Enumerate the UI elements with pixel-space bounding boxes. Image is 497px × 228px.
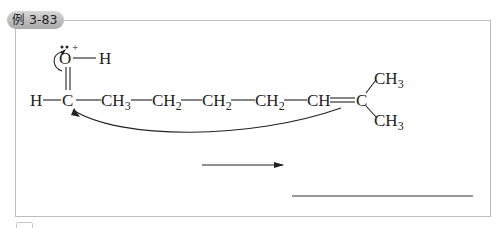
chain-group-5: CH bbox=[307, 91, 331, 110]
note-box bbox=[16, 222, 33, 228]
chain-group-4: CH2 bbox=[255, 91, 285, 113]
chain-group-3: CH2 bbox=[202, 91, 232, 113]
terminal-carbon: C bbox=[356, 91, 367, 110]
carbonyl-carbon: C bbox=[62, 91, 73, 110]
oh-hydrogen: H bbox=[99, 49, 111, 68]
chain-group-1: CH3 bbox=[101, 91, 131, 113]
reaction-diagram: O + H H C CH3 CH2 CH2 CH2 CH C CH3 CH3 bbox=[0, 0, 497, 228]
chain-group-2: CH2 bbox=[152, 91, 182, 113]
cyclization-arrow-icon bbox=[73, 108, 341, 132]
left-hydrogen: H bbox=[30, 91, 42, 110]
methyl-top: CH3 bbox=[374, 69, 404, 91]
methyl-bottom: CH3 bbox=[374, 111, 404, 133]
oxygen-charge: + bbox=[72, 41, 78, 53]
